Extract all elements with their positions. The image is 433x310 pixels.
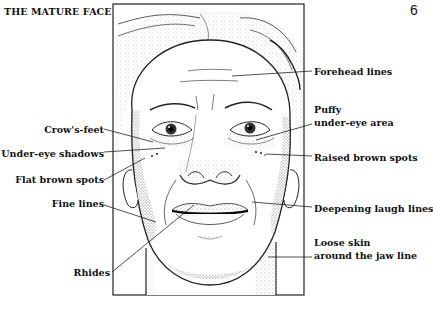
label-raised-brown-spots: Raised brown spots <box>314 151 418 164</box>
label-jaw-line1: Loose skin <box>314 236 417 249</box>
label-flat-brown-spots: Flat brown spots <box>15 173 104 186</box>
label-crows-feet: Crow's-feet <box>44 123 104 136</box>
label-forehead-lines: Forehead lines <box>314 65 392 78</box>
label-jaw-line2: around the jaw line <box>314 249 417 262</box>
label-under-eye-shadows: Under-eye shadows <box>1 147 104 160</box>
label-rhides: Rhides <box>74 266 110 279</box>
label-deepening-laugh-lines: Deepening laugh lines <box>314 202 433 215</box>
label-puffy-line1: Puffy <box>314 103 394 116</box>
label-loose-skin-jaw: Loose skin around the jaw line <box>314 236 417 262</box>
label-puffy-under-eye: Puffy under-eye area <box>314 103 394 129</box>
label-fine-lines: Fine lines <box>52 197 104 210</box>
label-puffy-line2: under-eye area <box>314 116 394 129</box>
